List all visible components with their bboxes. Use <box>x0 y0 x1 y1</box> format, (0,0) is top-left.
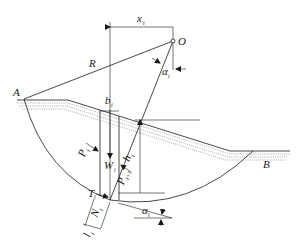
alpha-bottom-tick1 <box>162 209 163 214</box>
svg-text:i: i <box>94 194 96 200</box>
label-w-i: W i <box>104 159 116 173</box>
svg-text:i: i <box>143 20 145 26</box>
label-p-i: P i <box>75 146 92 160</box>
label-b: B <box>263 158 270 170</box>
svg-text:i: i <box>111 102 113 108</box>
n-dimension-ext2 <box>101 202 110 228</box>
label-b-i: b i <box>105 94 113 108</box>
label-alpha-top: α i <box>162 65 170 79</box>
radius-line <box>24 41 173 99</box>
svg-text:i: i <box>148 212 150 218</box>
label-t-i: T i <box>88 187 96 200</box>
svg-text:W: W <box>104 159 114 171</box>
slope-stability-diagram: O R A B x i α i b i W i h i P i P i+1 T … <box>0 0 299 245</box>
svg-text:i+1: i+1 <box>124 170 133 180</box>
svg-text:h: h <box>120 153 133 163</box>
svg-text:i: i <box>114 167 116 173</box>
svg-text:x: x <box>136 12 142 24</box>
label-p-next: P i+1 <box>114 167 133 187</box>
ground-surface <box>17 100 290 160</box>
label-a: A <box>12 86 20 98</box>
label-l-i: l i <box>80 229 95 239</box>
label-r: R <box>88 57 96 69</box>
alpha-top-tick1 <box>152 58 160 63</box>
l-dimension-line <box>83 224 101 229</box>
svg-text:i: i <box>168 73 170 79</box>
slip-surface-arc <box>24 99 253 202</box>
label-x-i: x i <box>136 12 145 26</box>
center-point-o <box>171 39 175 43</box>
label-h-i: h i <box>120 151 136 163</box>
label-o: O <box>178 35 186 47</box>
label-alpha-bottom: α i <box>142 204 150 218</box>
label-n-i: N i <box>87 205 104 220</box>
